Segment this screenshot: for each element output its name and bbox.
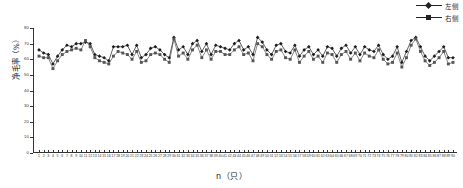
x-tick-label: 63 (325, 155, 329, 159)
x-tick-label: 28 (163, 155, 167, 159)
data-point-square (256, 42, 259, 45)
data-point-square (442, 50, 445, 53)
data-point-square (317, 55, 320, 58)
y-tick-label: 70 (24, 41, 29, 45)
series-svg (33, 28, 457, 153)
data-point-square (89, 45, 92, 48)
x-tick-label: 65 (335, 155, 339, 159)
x-tick-label: 16 (107, 155, 111, 159)
x-tick-label: 42 (228, 155, 232, 159)
data-point-diamond (293, 43, 297, 47)
data-point-square (452, 61, 455, 64)
x-tick-label: 40 (218, 155, 222, 159)
x-tick-label: 7 (66, 155, 68, 159)
x-tick-label: 35 (195, 155, 199, 159)
x-tick-label: 4 (52, 155, 54, 159)
data-point-square (93, 56, 96, 59)
x-tick-label: 76 (386, 155, 390, 159)
data-point-square (307, 50, 310, 53)
chart-legend: 左侧 右侧 (416, 1, 459, 22)
x-tick-label: 23 (139, 155, 143, 159)
x-tick-label: 8 (71, 155, 73, 159)
x-tick-label: 77 (391, 155, 395, 159)
x-tick-label: 9 (75, 155, 77, 159)
x-tick-label: 46 (246, 155, 250, 159)
data-point-diamond (330, 47, 334, 51)
x-tick-label: 1 (38, 155, 40, 159)
data-point-square (182, 52, 185, 55)
data-point-diamond (214, 43, 218, 47)
data-point-diamond (219, 45, 223, 49)
x-tick-label: 73 (372, 155, 376, 159)
x-tick-label: 59 (307, 155, 311, 159)
legend-label-0: 左侧 (445, 1, 459, 11)
x-tick-label: 50 (265, 155, 269, 159)
x-tick-label: 30 (172, 155, 176, 159)
data-point-square (238, 45, 241, 48)
data-point-square (428, 64, 431, 67)
data-point-diamond (274, 43, 278, 47)
data-point-square (293, 48, 296, 51)
y-axis-title: 净毛率（%） (10, 17, 21, 99)
data-point-square (186, 58, 189, 61)
data-point-square (158, 53, 161, 56)
data-point-diamond (126, 43, 130, 47)
data-point-square (228, 53, 231, 56)
data-point-diamond (130, 53, 134, 57)
data-point-square (210, 58, 213, 61)
x-tick-label: 71 (363, 155, 367, 159)
data-point-square (98, 59, 101, 62)
x-tick-label: 36 (200, 155, 204, 159)
data-point-square (424, 59, 427, 62)
data-point-square (261, 45, 264, 48)
data-point-diamond (326, 45, 330, 49)
x-tick-label: 75 (381, 155, 385, 159)
data-point-diamond (279, 42, 283, 46)
x-tick-label: 80 (405, 155, 409, 159)
data-point-square (140, 61, 143, 64)
x-tick-label: 90 (451, 155, 455, 159)
x-tick-label: 54 (284, 155, 288, 159)
x-tick-label: 27 (158, 155, 162, 159)
legend-label-1: 右侧 (445, 13, 459, 23)
x-tick-label: 53 (279, 155, 283, 159)
x-tick-label: 83 (418, 155, 422, 159)
y-tick-label: 40 (24, 88, 29, 92)
x-tick-label: 18 (116, 155, 120, 159)
x-tick-label: 33 (186, 155, 190, 159)
y-tick-label: 50 (24, 73, 29, 77)
x-tick-label: 78 (395, 155, 399, 159)
data-point-diamond (223, 47, 227, 51)
x-tick-label: 20 (125, 155, 129, 159)
legend-item-1: 右侧 (416, 13, 459, 22)
x-tick-label: 31 (177, 155, 181, 159)
data-point-square (191, 48, 194, 51)
x-tick-label: 5 (57, 155, 59, 159)
x-axis-title: n（只） (0, 170, 463, 181)
data-point-square (438, 56, 441, 59)
x-tick-label: 21 (130, 155, 134, 159)
data-point-square (265, 53, 268, 56)
data-point-square (38, 55, 41, 58)
series-line (39, 37, 453, 64)
data-point-square (196, 44, 199, 47)
data-point-square (131, 58, 134, 61)
data-point-square (354, 52, 357, 55)
plot-area: 01020304050607080 1234567891011121314151… (33, 28, 457, 153)
data-point-square (279, 48, 282, 51)
data-point-square (303, 55, 306, 58)
data-point-square (47, 56, 50, 59)
x-tick-label: 56 (293, 155, 297, 159)
x-tick-label: 60 (311, 155, 315, 159)
x-tick-label: 84 (423, 155, 427, 159)
x-tick-label: 29 (167, 155, 171, 159)
data-point-square (386, 62, 389, 65)
x-tick-label: 74 (377, 155, 381, 159)
x-tick-label: 66 (339, 155, 343, 159)
data-point-diamond (451, 56, 455, 60)
data-point-diamond (447, 56, 451, 60)
x-tick-label: 47 (251, 155, 255, 159)
x-tick-label: 69 (353, 155, 357, 159)
x-tick-label: 32 (181, 155, 185, 159)
x-tick-label: 55 (288, 155, 292, 159)
